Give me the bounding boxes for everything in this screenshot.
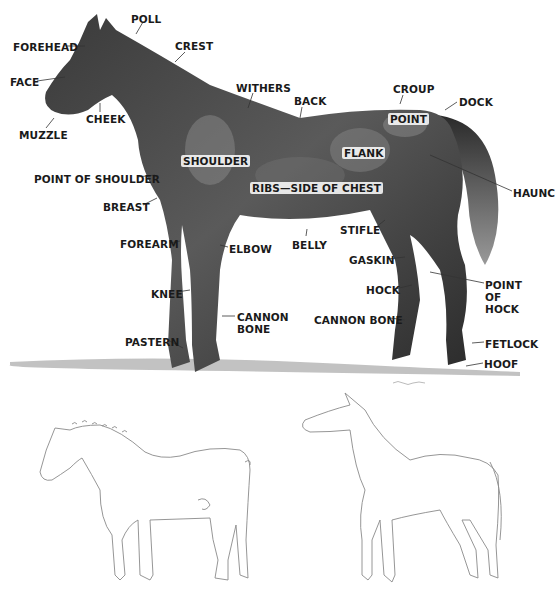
label-face: FACE [10,76,39,88]
label-withers: WITHERS [236,82,291,94]
label-shoulder: SHOULDER [181,155,250,167]
label-flank: FLANK [342,147,385,159]
label-point: POINT [388,113,429,125]
label-point-of-hock: POINT OF HOCK [485,279,522,315]
label-stifle: STIFLE [340,224,380,236]
label-muzzle: MUZZLE [19,129,68,141]
label-forehead: FOREHEAD [13,41,78,53]
label-back: BACK [294,95,326,107]
label-fetlock: FETLOCK [485,338,538,350]
label-cannon-bone-front: CANNON BONE [237,311,289,335]
label-croup: CROUP [393,83,434,95]
label-cheek: CHEEK [86,113,125,125]
label-elbow: ELBOW [229,243,272,255]
label-belly: BELLY [292,239,327,251]
label-hoof: HOOF [484,358,518,370]
label-cannon-bone-hind: CANNON BONE [314,314,403,326]
label-ribs-side-of-chest: RIBS—SIDE OF CHEST [250,182,383,194]
label-hock: HOCK [366,284,400,296]
label-haunch: HAUNC [513,187,555,199]
label-gaskin: GASKIN [349,254,395,266]
label-breast: BREAST [103,201,150,213]
label-point-of-shoulder: POINT OF SHOULDER [34,173,160,185]
label-crest: CREST [175,40,213,52]
label-knee: KNEE [151,288,183,300]
label-pastern: PASTERN [125,336,179,348]
label-poll: POLL [131,13,161,25]
label-forearm: FOREARM [120,238,179,250]
label-dock: DOCK [459,96,493,108]
